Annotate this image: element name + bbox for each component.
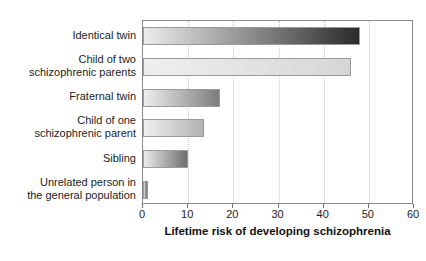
x-tick-label-60: 60 xyxy=(407,208,419,221)
bar xyxy=(143,89,220,107)
y-axis-label-sibling: Sibling xyxy=(0,152,136,165)
y-axis-label-fraternal-twin: Fraternal twin xyxy=(0,90,136,103)
x-axis-ticks: 0102030405060 xyxy=(142,204,413,222)
bar xyxy=(143,150,188,168)
x-tick-label-40: 40 xyxy=(317,208,329,221)
bar-row xyxy=(143,181,413,199)
y-axis-labels: Identical twin Child of two schizophreni… xyxy=(0,20,136,204)
x-tick-label-50: 50 xyxy=(362,208,374,221)
gridline-10 xyxy=(188,21,189,203)
gridline-40 xyxy=(324,21,325,203)
y-axis-label-unrelated-person: Unrelated person in the general populati… xyxy=(0,176,136,202)
bar xyxy=(143,58,351,76)
x-tick-label-0: 0 xyxy=(139,208,145,221)
bar-row xyxy=(143,150,413,168)
x-axis-title: Lifetime risk of developing schizophreni… xyxy=(142,225,413,237)
bar-row xyxy=(143,27,413,45)
bar-row xyxy=(143,58,413,76)
bar xyxy=(143,181,148,199)
gridline-20 xyxy=(233,21,234,203)
y-axis-label-child-of-two: Child of two schizophrenic parents xyxy=(0,53,136,79)
bar-chart: Identical twin Child of two schizophreni… xyxy=(0,0,426,261)
x-tick-label-10: 10 xyxy=(181,208,193,221)
bar-row xyxy=(143,89,413,107)
plot-area xyxy=(142,20,413,204)
bar xyxy=(143,27,360,45)
bar xyxy=(143,119,204,137)
x-tick-label-30: 30 xyxy=(271,208,283,221)
gridline-30 xyxy=(279,21,280,203)
y-axis-label-identical-twin: Identical twin xyxy=(0,29,136,42)
y-axis-label-child-of-one: Child of one schizophrenic parent xyxy=(0,114,136,140)
bar-row xyxy=(143,119,413,137)
x-tick-label-20: 20 xyxy=(226,208,238,221)
gridline-50 xyxy=(369,21,370,203)
